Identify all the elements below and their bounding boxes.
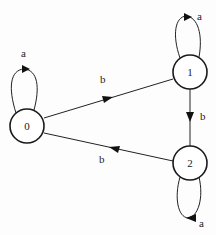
- node-0: 0: [10, 109, 44, 143]
- loop-path: [11, 69, 37, 113]
- state-label: 1: [187, 66, 193, 78]
- arrow-icon: [109, 146, 120, 153]
- diagram-canvas: a b a b a b: [0, 0, 216, 235]
- state-label: 2: [187, 157, 193, 169]
- node-2: 2: [173, 146, 207, 180]
- node-1: 1: [173, 55, 207, 89]
- edge-label: a: [21, 47, 26, 59]
- edge-2-0: b: [44, 133, 173, 165]
- arrow-icon: [184, 13, 192, 21]
- loop-path: [175, 16, 200, 58]
- automaton-diagram: a b a b a b: [0, 0, 216, 235]
- edge-label: b: [100, 73, 106, 85]
- arrow-icon: [22, 65, 30, 73]
- edge-label: a: [197, 10, 202, 22]
- state-label: 0: [24, 120, 30, 132]
- edge-1-1: a: [175, 10, 202, 58]
- edge-label: b: [99, 153, 105, 165]
- loop-path: [177, 177, 201, 218]
- edge-label: b: [200, 110, 206, 122]
- edge-label: a: [199, 217, 204, 229]
- arrow-icon: [186, 214, 196, 222]
- edge-2-2: a: [177, 177, 204, 229]
- edge-line: [44, 133, 173, 161]
- edge-1-2: b: [186, 89, 206, 146]
- edge-0-1: b: [44, 73, 173, 118]
- edge-0-0: a: [11, 47, 37, 113]
- arrow-icon: [102, 96, 113, 103]
- arrow-icon: [186, 112, 194, 122]
